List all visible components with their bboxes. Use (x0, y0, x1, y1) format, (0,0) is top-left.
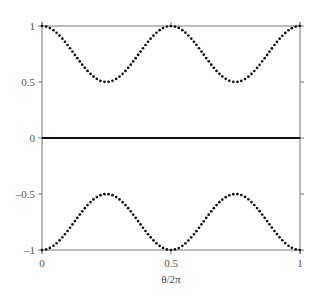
x-tick-label: 0 (39, 257, 45, 269)
chart: 00.51 10.50–0.5–1 θ/2π (0, 0, 320, 297)
series-lower-dots (41, 193, 301, 252)
y-tick-labels: 10.50–0.5–1 (15, 20, 36, 256)
y-tick-label: –0.5 (15, 188, 36, 200)
x-axis-title: θ/2π (161, 273, 181, 285)
x-tick-label: 1 (297, 257, 303, 269)
series-layer (41, 25, 301, 252)
y-tick-label: –1 (23, 244, 35, 256)
x-tick-labels: 00.51 (39, 257, 303, 269)
series-upper-dots (41, 25, 301, 84)
y-tick-label: 0.5 (21, 76, 35, 88)
y-tick-label: 0 (30, 132, 36, 144)
y-tick-label: 1 (30, 20, 36, 32)
x-tick-label: 0.5 (164, 257, 178, 269)
